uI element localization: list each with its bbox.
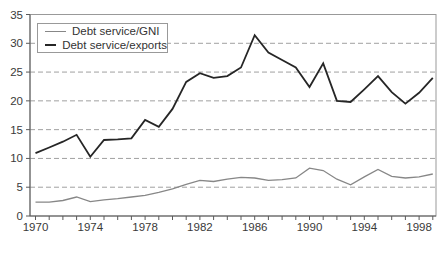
x-tick-label-1974: 1974 (78, 221, 104, 233)
x-tick-label-1970: 1970 (23, 221, 49, 233)
legend-entry-exports: Debt service/exports (45, 38, 167, 52)
legend-entry-gni: Debt service/GNI (45, 24, 167, 38)
x-tick-label-1998: 1998 (406, 221, 432, 233)
legend: Debt service/GNI Debt service/exports (37, 23, 168, 53)
legend-swatch-exports-line (45, 44, 56, 46)
x-tick-label-1994: 1994 (352, 221, 378, 233)
x-tick-label-1978: 1978 (132, 221, 158, 233)
legend-label-gni: Debt service/GNI (72, 25, 160, 38)
x-tick-label-1982: 1982 (187, 221, 213, 233)
series-line-debt-service-exports (36, 35, 433, 157)
y-tick-label-15: 15 (10, 124, 23, 136)
x-tick-label-1986: 1986 (242, 221, 268, 233)
chart-figure: 0510152025303519701974197819821986199019… (0, 0, 444, 253)
x-tick-label-1990: 1990 (297, 221, 323, 233)
y-tick-label-30: 30 (10, 37, 23, 49)
legend-swatch-gni-line (45, 31, 66, 32)
legend-label-exports: Debt service/exports (62, 39, 167, 52)
y-tick-label-10: 10 (10, 152, 23, 164)
y-tick-label-20: 20 (10, 95, 23, 107)
y-tick-label-5: 5 (17, 181, 23, 193)
series-line-debt-service-gni (36, 168, 433, 202)
y-tick-label-25: 25 (10, 66, 23, 78)
y-tick-label-35: 35 (10, 9, 23, 21)
